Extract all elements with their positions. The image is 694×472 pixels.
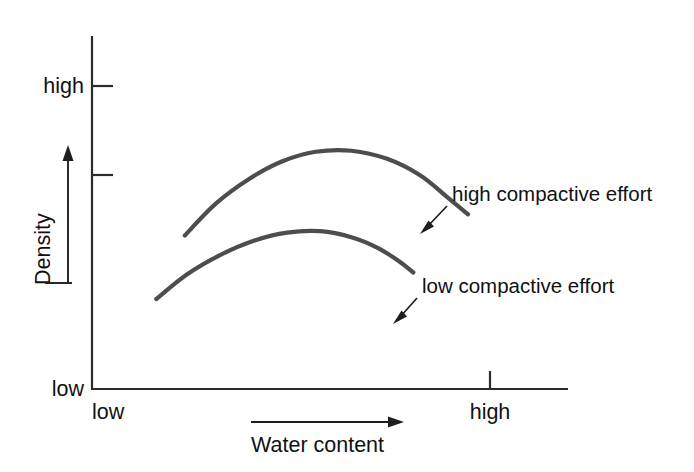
compaction-curve-chart: high low low high Density Water content [0, 0, 694, 472]
y-axis-high-label: high [43, 74, 84, 98]
annotation-label-low: low compactive effort [422, 274, 614, 297]
x-axis-high-label: high [470, 400, 511, 424]
y-axis-low-label: low [52, 377, 85, 401]
x-axis-title-group: Water content [251, 417, 404, 458]
x-axis-low-label: low [92, 400, 125, 424]
chart-figure: high low low high Density Water content [0, 0, 694, 472]
annotation-label-high: high compactive effort [452, 182, 652, 205]
y-axis-title: Density [31, 213, 55, 285]
x-axis-title: Water content [251, 433, 384, 457]
